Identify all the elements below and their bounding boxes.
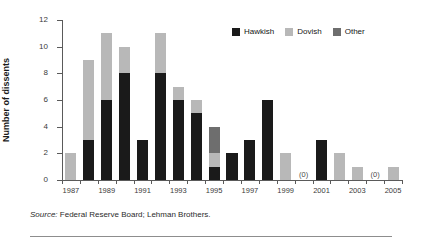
bar-1992[interactable] xyxy=(155,33,166,180)
bar-segment-hawkish xyxy=(209,167,220,180)
x-axis-tick-label: 1987 xyxy=(63,187,80,195)
x-axis-tick-label: 2005 xyxy=(385,187,402,195)
bar-segment-hawkish xyxy=(101,100,112,180)
y-axis-tick-label: 12 xyxy=(39,16,48,24)
y-axis-tick: 4 xyxy=(57,127,62,128)
x-axis-tick xyxy=(402,180,403,184)
bottom-divider xyxy=(30,236,392,237)
legend-swatch-icon xyxy=(285,28,293,36)
bar-segment-hawkish xyxy=(244,140,255,180)
bar-1993[interactable] xyxy=(173,87,184,180)
bar-1987[interactable] xyxy=(65,153,76,180)
y-axis-title: Number of dissents xyxy=(1,58,11,142)
x-axis-tick xyxy=(116,180,117,184)
x-axis-tick xyxy=(223,180,224,184)
y-axis-tick-label: 6 xyxy=(44,96,48,104)
legend-item-other[interactable]: Other xyxy=(333,28,365,36)
legend-item-dovish[interactable]: Dovish xyxy=(285,28,321,36)
bar-segment-hawkish xyxy=(155,73,166,180)
bar-segment-dovish xyxy=(280,153,291,180)
bar-1998[interactable] xyxy=(262,100,273,180)
source-label: Source: xyxy=(30,210,58,219)
x-axis-tick xyxy=(151,180,152,184)
bar-segment-dovish xyxy=(388,167,399,180)
bar-segment-dovish xyxy=(191,100,202,113)
x-axis-tick xyxy=(295,180,296,184)
chart-figure: Number of dissents 024681012 19871989199… xyxy=(0,0,422,250)
bar-1989[interactable] xyxy=(101,33,112,180)
y-axis-tick: 10 xyxy=(57,47,62,48)
x-axis-tick xyxy=(205,180,206,184)
x-axis-tick xyxy=(134,180,135,184)
x-axis-tick xyxy=(187,180,188,184)
y-axis-tick: 8 xyxy=(57,73,62,74)
x-axis-tick xyxy=(241,180,242,184)
bar-segment-hawkish xyxy=(316,140,327,180)
bar-segment-dovish xyxy=(155,33,166,73)
bar-1990[interactable] xyxy=(119,47,130,180)
zero-value-annotation: (0) xyxy=(371,171,380,179)
y-axis-tick-label: 0 xyxy=(44,176,48,184)
x-axis-tick xyxy=(169,180,170,184)
x-axis-tick xyxy=(277,180,278,184)
legend-label: Hawkish xyxy=(244,28,274,36)
zero-value-annotation: (0) xyxy=(299,171,308,179)
bar-segment-dovish xyxy=(83,60,94,140)
x-axis-tick xyxy=(330,180,331,184)
bar-1991[interactable] xyxy=(137,140,148,180)
bar-2001[interactable] xyxy=(316,140,327,180)
bar-segment-dovish xyxy=(352,167,363,180)
source-note: Source: Federal Reserve Board; Lehman Br… xyxy=(30,210,211,219)
bar-segment-hawkish xyxy=(137,140,148,180)
x-axis-tick-label: 1997 xyxy=(242,187,259,195)
x-axis-line xyxy=(62,180,403,181)
bar-segment-dovish xyxy=(334,153,345,180)
x-axis-tick xyxy=(366,180,367,184)
bar-1997[interactable] xyxy=(244,140,255,180)
x-axis-tick-label: 2003 xyxy=(349,187,366,195)
x-axis-tick-label: 1999 xyxy=(277,187,294,195)
bar-segment-hawkish xyxy=(226,153,237,180)
y-axis-tick-label: 10 xyxy=(39,43,48,51)
y-axis-tick: 12 xyxy=(57,20,62,21)
x-axis-tick-label: 1991 xyxy=(134,187,151,195)
x-axis-tick xyxy=(259,180,260,184)
legend-label: Other xyxy=(345,28,365,36)
bar-1999[interactable] xyxy=(280,153,291,180)
x-axis-tick-label: 1993 xyxy=(170,187,187,195)
bar-2002[interactable] xyxy=(334,153,345,180)
bar-segment-dovish xyxy=(101,33,112,100)
bar-1994[interactable] xyxy=(191,100,202,180)
legend-swatch-icon xyxy=(232,28,240,36)
bar-segment-dovish xyxy=(119,47,130,74)
bar-segment-other xyxy=(209,127,220,154)
y-axis-tick-label: 8 xyxy=(44,69,48,77)
x-axis-tick-label: 1995 xyxy=(206,187,223,195)
legend-item-hawkish[interactable]: Hawkish xyxy=(232,28,274,36)
x-axis-tick-label: 1989 xyxy=(98,187,115,195)
x-axis-tick xyxy=(348,180,349,184)
bar-segment-hawkish xyxy=(191,113,202,180)
legend-swatch-icon xyxy=(333,28,341,36)
x-axis-tick xyxy=(80,180,81,184)
bar-1995[interactable] xyxy=(209,127,220,180)
x-axis-tick-label: 2001 xyxy=(313,187,330,195)
y-axis-tick-label: 2 xyxy=(44,149,48,157)
bar-1996[interactable] xyxy=(226,153,237,180)
y-axis-tick: 6 xyxy=(57,100,62,101)
bar-2003[interactable] xyxy=(352,167,363,180)
y-axis-tick: 2 xyxy=(57,153,62,154)
bar-2005[interactable] xyxy=(388,167,399,180)
source-text: Federal Reserve Board; Lehman Brothers. xyxy=(58,210,211,219)
bar-segment-dovish xyxy=(209,153,220,166)
x-axis-tick xyxy=(98,180,99,184)
chart-legend: HawkishDovishOther xyxy=(232,28,365,36)
bar-1988[interactable] xyxy=(83,60,94,180)
x-axis-tick xyxy=(62,180,63,184)
x-axis-tick xyxy=(313,180,314,184)
bar-segment-hawkish xyxy=(173,100,184,180)
plot-area: 024681012 198719891991199319951997199920… xyxy=(62,20,402,180)
bar-segment-hawkish xyxy=(262,100,273,180)
bar-segment-hawkish xyxy=(119,73,130,180)
y-axis-tick-label: 4 xyxy=(44,123,48,131)
